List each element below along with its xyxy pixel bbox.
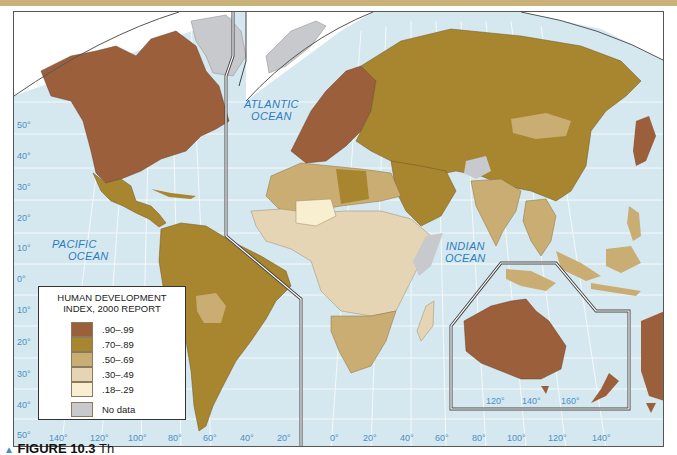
legend-item: .30–.49 [71,367,134,382]
legend-swatch [71,402,93,417]
lon-label: 60° [203,433,217,443]
legend-swatch [71,337,93,352]
indian-ocean-label: INDIANOCEAN [445,240,486,264]
lon-label: 80° [168,433,182,443]
lon-label: 40° [240,433,254,443]
legend-swatch [71,322,93,337]
top-decorative-band [0,0,677,6]
legend-item: .90–.99 [71,322,134,337]
legend-swatch [71,367,93,382]
lat-label: 50° [17,430,31,440]
caption-triangle-icon: ▲ [4,444,14,455]
legend-item: .70–.89 [71,337,134,352]
lat-label: 10° [17,243,31,253]
libya [336,169,369,204]
legend-title: HUMAN DEVELOPMENT INDEX, 2000 REPORT [39,292,185,314]
lat-label: 40° [17,151,31,161]
lon-label: 20° [363,433,377,443]
lat-label: 10° [17,305,31,315]
atlantic-ocean-label: ATLANTICOCEAN [244,98,299,122]
lon-label: 0° [330,433,339,443]
lat-label: 0° [17,274,26,284]
legend-swatch [71,382,93,397]
world-map: ATLANTICOCEAN PACIFICOCEAN INDIANOCEAN 5… [13,11,664,447]
lat-label: 30° [17,369,31,379]
caption-text: Th [99,441,114,455]
pacific-ocean-label: PACIFICOCEAN [52,238,109,262]
lon-label: 60° [435,433,449,443]
lon-label: 40° [400,433,414,443]
lat-label: 20° [17,213,31,223]
lon-label: 100° [507,433,526,443]
lon-label: 140° [592,433,611,443]
lat-label: 50° [17,120,31,130]
inset-lon-label: 140° [522,396,541,406]
legend-item: .50–.69 [71,352,134,367]
inset-lon-label: 160° [561,396,580,406]
lat-label: 30° [17,182,31,192]
lon-label: 20° [277,433,291,443]
lon-label: 120° [548,433,567,443]
hdi-legend: HUMAN DEVELOPMENT INDEX, 2000 REPORT .90… [38,286,186,420]
caption-label: FIGURE 10.3 [18,441,96,455]
legend-item: .18–.29 [71,382,134,397]
lon-label: 100° [128,433,147,443]
legend-swatch [71,352,93,367]
lat-label: 40° [17,400,31,410]
inset-lon-label: 120° [486,396,505,406]
lat-label: 20° [17,337,31,347]
figure-caption: ▲ FIGURE 10.3 Th [4,441,114,455]
lon-label: 80° [472,433,486,443]
legend-item: No data [71,402,135,417]
